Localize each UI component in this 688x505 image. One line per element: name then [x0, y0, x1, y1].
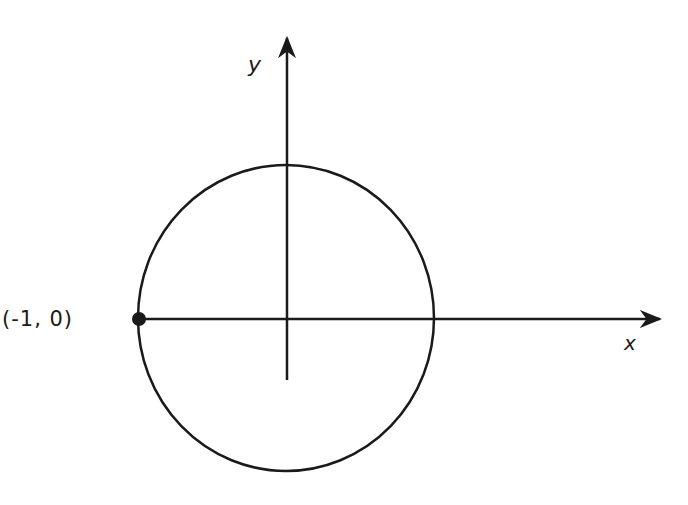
unit-circle-figure: (-1, 0) y x	[0, 0, 688, 505]
point-marker	[132, 312, 146, 326]
y-axis-label: y	[248, 52, 261, 77]
point-label: (-1, 0)	[2, 307, 73, 331]
diagram-canvas	[0, 0, 688, 505]
x-axis-label: x	[624, 331, 636, 355]
